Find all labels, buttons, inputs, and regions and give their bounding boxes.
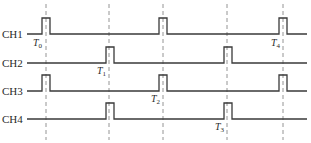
time-marker-label: T1 bbox=[97, 65, 107, 78]
time-marker-label: T3 bbox=[215, 121, 225, 134]
signal-ch2 bbox=[27, 47, 307, 63]
signal-ch1 bbox=[27, 18, 307, 34]
time-marker-label: T0 bbox=[33, 37, 43, 50]
channel-labels: CH1CH2CH3CH4 bbox=[2, 28, 23, 125]
channel-label: CH3 bbox=[2, 85, 23, 97]
channel-label: CH2 bbox=[2, 57, 23, 69]
timing-diagram: CH1CH2CH3CH4 T0T1T2T3T4 bbox=[0, 0, 311, 143]
channel-label: CH4 bbox=[2, 113, 23, 125]
time-marker-label: T4 bbox=[271, 37, 281, 50]
channel-signals bbox=[27, 18, 307, 119]
signal-ch3 bbox=[27, 75, 307, 91]
time-marker-label: T2 bbox=[151, 93, 161, 106]
channel-label: CH1 bbox=[2, 28, 23, 40]
signal-ch4 bbox=[27, 103, 307, 119]
